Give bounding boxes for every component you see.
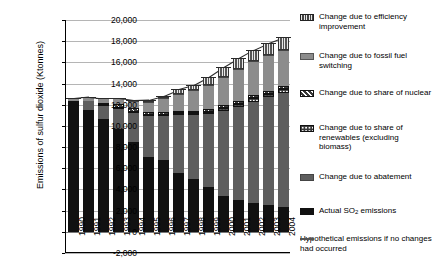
bar-2002: [248, 50, 259, 232]
bar-segment-abate: [143, 116, 154, 156]
x-axis-tick-label: 2000: [227, 217, 237, 236]
legend-item-nuclear[interactable]: Change due to share of nuclear: [300, 88, 431, 98]
x-axis-tick-label: 1990: [77, 217, 87, 236]
bar-2004: [278, 37, 289, 232]
bar-segment-renew: [173, 113, 184, 115]
bar-segment-effic: [233, 58, 244, 69]
bar-1997: [173, 89, 184, 231]
legend-item-abate[interactable]: Change due to abatement: [300, 172, 412, 182]
bar-segment-effic: [278, 37, 289, 50]
bar-1996: [158, 96, 169, 232]
legend-item-label: Change due to share of nuclear: [319, 88, 431, 98]
black-swatch: [300, 208, 314, 215]
y-axis-tick-label: 10,000: [77, 121, 137, 131]
bar-2003: [263, 43, 274, 232]
bar-segment-abate: [218, 111, 229, 196]
dark-gray-swatch: [300, 174, 314, 181]
bar-segment-fossil: [233, 69, 244, 101]
bar-segment-abate: [158, 116, 169, 159]
x-axis-tick-label: 1996: [167, 217, 177, 236]
bar-segment-nuclear: [248, 95, 259, 98]
y-axis-tick-label: 6,000: [77, 163, 137, 173]
y-axis-line: [65, 20, 66, 253]
bar-segment-fossil: [143, 102, 154, 113]
x-axis-tick-label: 1999: [212, 217, 222, 236]
legend-item-label: Hypothetical emissions if no changes had…: [300, 234, 433, 253]
x-axis-tick-label: 1995: [152, 217, 162, 236]
bar-segment-fossil: [173, 94, 184, 111]
chart-figure: Emissions of sulfur dioxide (Ktonnes) Ch…: [0, 0, 433, 270]
legend-item-actual[interactable]: Actual SO2 emissions: [300, 206, 396, 217]
y-axis-tick-label: 20,000: [77, 15, 137, 25]
bar-1995: [143, 100, 154, 232]
bar-2001: [233, 58, 244, 232]
bar-segment-nuclear: [173, 111, 184, 114]
solid-gray-swatch: [300, 53, 314, 60]
x-axis-tick-label: 1994: [137, 217, 147, 236]
x-axis-tick-label: 2004: [287, 217, 297, 236]
y-axis-tick-label: 8,000: [77, 142, 137, 152]
dotted-swatch: [300, 125, 314, 132]
bar-segment-fossil: [263, 55, 274, 91]
bar-segment-abate: [263, 97, 274, 205]
x-axis-tick-label: 1991: [92, 217, 102, 236]
bar-segment-nuclear: [143, 112, 154, 115]
bar-segment-nuclear: [218, 105, 229, 108]
y-axis-tick-label: 4,000: [77, 184, 137, 194]
legend-item-label: Change due to fossil fuel switching: [319, 51, 433, 70]
x-axis-tick-label: 2001: [242, 217, 252, 236]
x-axis-tick-label: 2003: [272, 217, 282, 236]
line-swatch: [300, 238, 314, 240]
y-axis-title: Emissions of sulfur dioxide (Ktonnes): [35, 15, 45, 215]
legend-item-effic[interactable]: Change due to efficiency improvement: [300, 12, 433, 31]
bar-segment-abate: [233, 107, 244, 200]
bar-segment-nuclear: [233, 101, 244, 104]
bar-segment-renew: [233, 104, 244, 107]
bar-segment-abate: [248, 102, 259, 204]
bar-segment-effic: [218, 67, 229, 77]
legend-item-hypo[interactable]: Hypothetical emissions if no changes had…: [300, 234, 433, 253]
legend-item-label: Change due to efficiency improvement: [319, 12, 433, 31]
bar-segment-fossil: [218, 77, 229, 106]
legend-item-fossil[interactable]: Change due to fossil fuel switching: [300, 51, 433, 70]
y-axis-tick-label: 14,000: [77, 79, 137, 89]
bar-segment-renew: [263, 94, 274, 98]
bar-segment-renew: [218, 108, 229, 111]
x-axis-tick-label: 1997: [182, 217, 192, 236]
x-axis-tick-label: 1993: [122, 217, 132, 236]
y-axis-tick-label: 16,000: [77, 57, 137, 67]
bar-1998: [188, 85, 199, 232]
x-axis-tick-label: 2002: [257, 217, 267, 236]
bar-segment-renew: [278, 89, 289, 93]
bar-segment-fossil: [158, 98, 169, 112]
y-tick-mark: [62, 253, 65, 254]
y-axis-tick-label: 18,000: [77, 36, 137, 46]
bar-segment-nuclear: [158, 112, 169, 115]
x-axis-tick-label: 1998: [197, 217, 207, 236]
diagonal-hatch-swatch: [300, 90, 314, 97]
bar-segment-fossil: [188, 90, 199, 110]
bar-segment-renew: [248, 98, 259, 102]
y-axis-tick-label: 2,000: [77, 206, 137, 216]
legend-item-label: Change due to abatement: [319, 172, 412, 182]
bar-segment-fossil: [203, 85, 214, 109]
bar-segment-renew: [203, 112, 214, 115]
bar-2000: [218, 67, 229, 232]
x-axis-tick-label: 1992: [107, 217, 117, 236]
bar-segment-nuclear: [188, 111, 199, 114]
bar-segment-effic: [203, 77, 214, 84]
bar-segment-renew: [188, 113, 199, 115]
bar-segment-effic: [263, 43, 274, 55]
hypothetical-line-segment: [276, 37, 291, 38]
bar-segment-fossil: [278, 50, 289, 87]
bar-segment-abate: [203, 114, 214, 187]
bar-segment-abate: [188, 115, 199, 179]
bar-segment-effic: [248, 50, 259, 62]
vertical-stripe-swatch: [300, 14, 314, 21]
bar-segment-nuclear: [263, 91, 274, 94]
legend-item-renew[interactable]: Change due to share of renewables (exclu…: [300, 123, 433, 152]
bar-segment-nuclear: [278, 86, 289, 89]
y-axis-tick-label: -2,000: [77, 248, 137, 258]
bar-segment-abate: [173, 115, 184, 172]
bar-segment-nuclear: [203, 109, 214, 112]
